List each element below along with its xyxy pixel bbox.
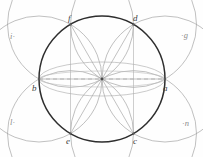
geometry-figure: a b c d e f i· ·g l· ·n [0, 0, 203, 157]
point-label-b: b [32, 84, 37, 93]
corner-label-g: ·g [181, 31, 188, 40]
vertex-point-f [69, 23, 71, 25]
point-label-a: a [163, 84, 168, 93]
vertex-point-b [38, 78, 40, 80]
corner-label-n: ·n [182, 119, 189, 128]
vertex-point-e [69, 132, 71, 134]
vertex-point-c [132, 132, 134, 134]
point-label-c: c [133, 137, 137, 146]
point-label-e: e [66, 137, 70, 146]
corner-label-l: l· [10, 118, 15, 127]
center-point [101, 78, 104, 81]
corner-label-i: i· [10, 32, 15, 41]
vertex-point-a [164, 78, 166, 80]
point-label-f: f [68, 14, 71, 23]
point-label-d: d [133, 14, 138, 23]
construction-drawing [0, 0, 203, 157]
vertex-point-d [132, 23, 134, 25]
